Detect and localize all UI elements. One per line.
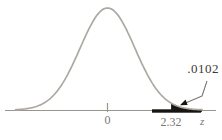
tail-area-annotation: .0102 — [187, 62, 219, 75]
normal-curve — [16, 8, 202, 110]
axis-label-z: z — [200, 116, 204, 127]
normal-curve-figure: 0 2.32 z .0102 — [0, 0, 222, 140]
critical-value-label: 2.32 — [161, 116, 182, 128]
annotation-pointer-line — [186, 81, 208, 103]
annotation-arrowhead-icon — [180, 100, 188, 106]
zero-tick-label: 0 — [105, 114, 111, 126]
